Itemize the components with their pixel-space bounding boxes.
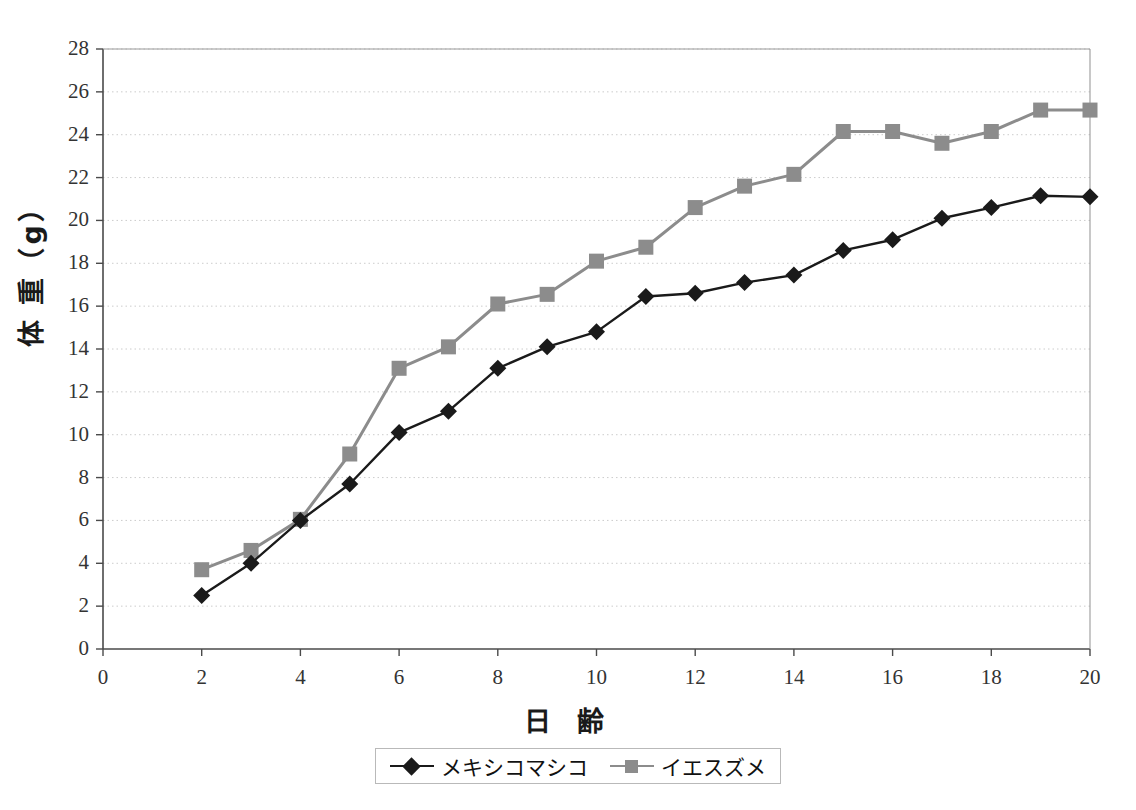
data-point-square <box>490 297 505 312</box>
y-tick-label: 18 <box>45 250 89 275</box>
y-tick-label: 20 <box>45 207 89 232</box>
y-tick-label: 2 <box>45 593 89 618</box>
x-tick-label: 20 <box>1067 665 1113 690</box>
legend-entry-series-a[interactable]: メキシコマシコ <box>390 751 588 781</box>
data-point-diamond <box>1032 187 1049 204</box>
data-point-square <box>194 562 209 577</box>
x-tick-label: 6 <box>376 665 422 690</box>
data-point-diamond <box>933 210 950 227</box>
data-point-square <box>1033 103 1048 118</box>
y-tick-label: 24 <box>45 122 89 147</box>
y-tick-label: 22 <box>45 165 89 190</box>
legend-swatch-square-icon <box>610 757 654 775</box>
data-point-diamond <box>1082 188 1099 205</box>
x-tick-label: 0 <box>80 665 126 690</box>
data-point-diamond <box>785 267 802 284</box>
data-point-diamond <box>687 285 704 302</box>
data-point-diamond <box>588 323 605 340</box>
y-tick-label: 14 <box>45 336 89 361</box>
x-axis-title: 日 齢 <box>0 700 1136 739</box>
y-tick-label: 26 <box>45 79 89 104</box>
y-tick-label: 10 <box>45 422 89 447</box>
data-point-diamond <box>884 231 901 248</box>
series-line-a <box>202 196 1090 596</box>
data-point-square <box>885 124 900 139</box>
data-point-square <box>342 447 357 462</box>
series-line-b <box>202 110 1090 570</box>
data-point-square <box>737 179 752 194</box>
data-point-square <box>638 240 653 255</box>
data-point-square <box>441 339 456 354</box>
data-point-square <box>786 167 801 182</box>
legend-label-series-a: メキシコマシコ <box>441 751 588 781</box>
y-tick-label: 12 <box>45 379 89 404</box>
y-tick-label: 0 <box>45 636 89 661</box>
x-tick-label: 16 <box>870 665 916 690</box>
y-tick-label: 28 <box>45 36 89 61</box>
plot-area <box>0 0 1136 810</box>
y-tick-label: 4 <box>45 550 89 575</box>
data-point-diamond <box>637 288 654 305</box>
data-point-square <box>589 254 604 269</box>
x-tick-label: 8 <box>475 665 521 690</box>
data-point-diamond <box>193 587 210 604</box>
data-point-square <box>934 136 949 151</box>
data-point-diamond <box>983 199 1000 216</box>
data-point-square <box>392 361 407 376</box>
x-tick-label: 18 <box>968 665 1014 690</box>
chart-figure: 体 重（g） 0246810121416182022242628 0246810… <box>0 0 1136 810</box>
data-point-diamond <box>835 242 852 259</box>
legend-swatch-diamond-icon <box>390 757 434 775</box>
x-tick-label: 12 <box>672 665 718 690</box>
data-point-diamond <box>539 338 556 355</box>
data-point-square <box>688 200 703 215</box>
legend-label-series-b: イエスズメ <box>661 751 766 781</box>
legend-entry-series-b[interactable]: イエスズメ <box>610 751 766 781</box>
chart-legend: メキシコマシコ イエスズメ <box>375 748 781 784</box>
data-point-square <box>1083 103 1098 118</box>
data-point-square <box>836 124 851 139</box>
y-tick-label: 6 <box>45 507 89 532</box>
y-tick-label: 8 <box>45 465 89 490</box>
x-tick-label: 14 <box>771 665 817 690</box>
data-point-square <box>984 124 999 139</box>
x-tick-label: 4 <box>277 665 323 690</box>
y-tick-label: 16 <box>45 293 89 318</box>
x-tick-label: 10 <box>574 665 620 690</box>
x-tick-label: 2 <box>179 665 225 690</box>
data-point-square <box>540 287 555 302</box>
data-point-diamond <box>736 274 753 291</box>
